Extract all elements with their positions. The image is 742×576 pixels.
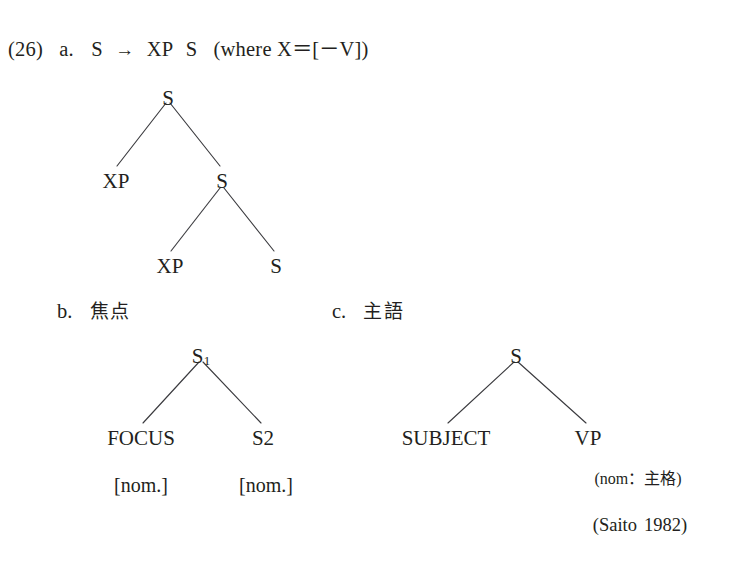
citation-author: (Saito — [593, 515, 637, 535]
tree-c-left-leaf-label: SUBJECT — [402, 426, 491, 450]
tree-a-root-node: S — [162, 88, 174, 109]
tree-c-gloss-note: (nom：主格) — [594, 471, 681, 487]
branch-b-root-right — [203, 362, 261, 423]
tree-b-right-leaf-node: S2 — [252, 428, 274, 449]
tree-a-inner-left-child-label: XP — [157, 254, 184, 278]
tree-c-right-leaf-label: VP — [575, 426, 602, 450]
branch-a-root-right — [170, 103, 220, 166]
item-c-japanese-label: 主語 — [363, 300, 404, 322]
tree-b-right-leaf-label: S — [252, 426, 264, 450]
item-b-caption: b. 焦点 — [57, 296, 131, 323]
tree-c-root-label: S — [510, 344, 522, 368]
tree-b-root-subscript: 1 — [204, 353, 211, 368]
rule-rhs-1: XP — [147, 38, 174, 60]
tree-branch-lines — [0, 0, 742, 576]
tree-b-root-label: S — [192, 344, 204, 368]
tree-b-right-feature: [nom.] — [239, 475, 293, 495]
item-b-japanese-label: 焦点 — [90, 300, 131, 322]
item-c-caption: c. 主語 — [332, 296, 404, 323]
rule-condition: (where X＝[－V]) — [214, 38, 369, 60]
tree-b-left-leaf-label: FOCUS — [107, 426, 175, 450]
tree-a-root-label: S — [162, 86, 174, 110]
tree-a-left-child-node: XP — [103, 171, 130, 192]
tree-c-left-leaf-node: SUBJECT — [402, 428, 491, 449]
tree-c-root-node: S — [510, 346, 522, 367]
tree-b-root-node: S1 — [192, 346, 211, 367]
tree-a-right-child-node: S — [216, 171, 228, 192]
citation-year: 1982) — [644, 515, 687, 535]
tree-c-right-leaf-node: VP — [575, 428, 602, 449]
tree-a-inner-right-child-node: S — [270, 256, 282, 277]
item-letter-b: b. — [57, 300, 72, 322]
tree-a-inner-right-child-label: S — [270, 254, 282, 278]
branch-c-root-left — [448, 362, 514, 423]
example-rule-line: (26) a. S → XP S (where X＝[－V]) — [8, 32, 369, 62]
tree-a-right-child-label: S — [216, 169, 228, 193]
branch-a-root-left — [117, 103, 166, 166]
tree-b-left-leaf-node: FOCUS — [107, 428, 175, 449]
branch-b-root-left — [143, 362, 199, 423]
tree-a-left-child-label: XP — [103, 169, 130, 193]
rule-rhs-2: S — [186, 38, 198, 60]
branch-a-inner-right — [224, 188, 274, 251]
rule-lhs: S — [91, 38, 103, 60]
rightwards-arrow-icon: → — [115, 39, 134, 60]
example-number: (26) — [8, 38, 43, 60]
item-letter-a: a. — [59, 38, 74, 60]
branch-a-inner-left — [171, 188, 220, 251]
citation: (Saito1982) — [593, 516, 687, 535]
tree-b-right-leaf-subscript: 2 — [264, 426, 275, 450]
figure-root: (26) a. S → XP S (where X＝[－V]) S XP S X… — [0, 0, 742, 576]
item-letter-c: c. — [332, 300, 346, 322]
tree-b-left-feature: [nom.] — [114, 475, 168, 495]
tree-a-inner-left-child-node: XP — [157, 256, 184, 277]
branch-c-root-right — [518, 362, 586, 423]
